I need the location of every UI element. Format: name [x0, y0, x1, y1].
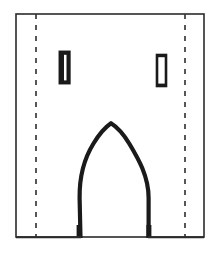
window-slit-left-reveal: [67, 53, 69, 83]
window-slit-left-shadow: [61, 53, 64, 83]
window-slit-right-frame: [157, 55, 166, 86]
drawing-canvas: [0, 0, 220, 254]
window-slit-right: [157, 54, 166, 86]
window-slit-right-sill: [157, 84, 166, 87]
window-slit-left-lintel: [60, 51, 69, 55]
window-slit-right-lintel: [157, 54, 166, 57]
facade-elevation-figure: [0, 0, 220, 254]
figure-background: [0, 0, 220, 254]
window-slit-left: [60, 51, 69, 83]
window-slit-left-sill: [60, 80, 69, 83]
